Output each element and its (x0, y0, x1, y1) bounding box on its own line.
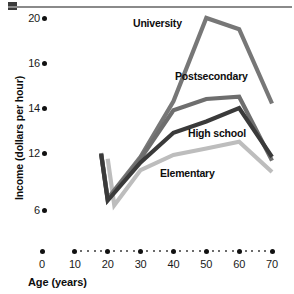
x-tick-dot-40 (171, 249, 176, 254)
x-axis-minor-dot (87, 250, 89, 252)
x-tick-label-60: 60 (228, 259, 250, 270)
x-tick-label-50: 50 (195, 259, 217, 270)
x-axis-minor-dot (186, 250, 188, 252)
y-tick-dot-6 (42, 208, 47, 213)
y-axis-title: Income (dollars per hour) (13, 63, 25, 213)
x-axis-minor-dot (120, 250, 122, 252)
x-tick-dot-10 (72, 249, 77, 254)
x-tick-dot-60 (237, 249, 242, 254)
chart-figure: 201614126 010203040506070 Income (dollar… (0, 0, 294, 294)
x-tick-label-40: 40 (162, 259, 184, 270)
x-tick-dot-30 (138, 249, 143, 254)
x-axis-minor-dot (166, 250, 168, 252)
x-tick-label-70: 70 (261, 259, 283, 270)
x-axis-minor-dot (94, 250, 96, 252)
x-axis-minor-dot (258, 250, 260, 252)
series-label-postsecondary: Postsecondary (175, 70, 248, 82)
series-label-elementary: Elementary (160, 167, 215, 179)
x-axis-minor-dot (212, 250, 214, 252)
x-axis-minor-dot (225, 250, 227, 252)
x-axis-minor-dot (153, 250, 155, 252)
x-axis-minor-dot (133, 250, 135, 252)
y-tick-dot-14 (42, 106, 47, 111)
y-tick-dot-12 (42, 151, 47, 156)
x-axis-minor-dot (199, 250, 201, 252)
y-tick-dot-20 (42, 16, 47, 21)
x-axis-minor-dot (232, 250, 234, 252)
x-tick-dot-50 (204, 249, 209, 254)
x-axis-title: Age (years) (28, 276, 87, 288)
series-label-university: University (133, 17, 182, 29)
x-tick-label-10: 10 (64, 259, 86, 270)
x-tick-label-30: 30 (130, 259, 152, 270)
y-tick-label-20: 20 (14, 13, 40, 23)
x-tick-dot-0 (40, 249, 45, 254)
x-tick-label-0: 0 (31, 259, 53, 270)
series-label-high-school: High school (188, 127, 246, 139)
x-tick-dot-20 (105, 249, 110, 254)
x-axis-minor-dot (245, 250, 247, 252)
x-axis-minor-dot (179, 250, 181, 252)
y-tick-dot-16 (42, 61, 47, 66)
x-tick-label-20: 20 (97, 259, 119, 270)
x-tick-dot-70 (270, 249, 275, 254)
